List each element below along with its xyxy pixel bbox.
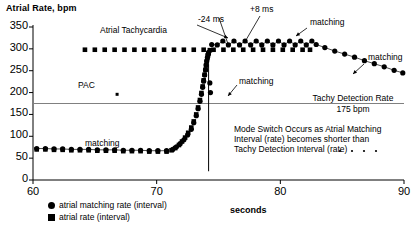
annotation-matching-descent: matching	[368, 52, 403, 62]
y-tick-label: 50	[0, 150, 28, 162]
y-tick-label: 200	[0, 85, 28, 97]
chart-root: Atrial Rate, bpm 0 50 100 150 200 250 30…	[0, 0, 416, 229]
x-tick-label: 90	[391, 185, 416, 197]
annotation-matching-baseline: matching	[85, 138, 120, 148]
tachy-detection-rate-value: 175 bpm	[294, 104, 412, 114]
legend-item-atrial-matching-rate: atrial matching rate (interval)	[48, 200, 167, 210]
circle-marker-icon	[48, 202, 55, 209]
plot-canvas	[0, 0, 416, 229]
y-tick-label: 0	[0, 172, 28, 184]
annotation-plus-8-ms: +8 ms	[250, 4, 273, 14]
legend-label: atrial rate (interval)	[59, 212, 130, 222]
square-marker-icon	[48, 214, 55, 221]
x-tick-label: 80	[267, 185, 293, 197]
legend-item-atrial-rate: atrial rate (interval)	[48, 212, 130, 222]
x-tick-label: 60	[20, 185, 46, 197]
x-axis-title: seconds	[230, 205, 267, 215]
mode-switch-note-line-1: Mode Switch Occurs as Atrial Matching	[234, 124, 381, 134]
tachy-detection-rate-label: Tachy Detection Rate	[294, 93, 412, 103]
mode-switch-note-line-2: Interval (rate) becomes shorter than	[234, 134, 369, 144]
annotation-matching-rise: matching	[239, 76, 274, 86]
legend-label: atrial matching rate (interval)	[59, 200, 167, 210]
y-tick-label: 100	[0, 128, 28, 140]
y-tick-label: 300	[0, 41, 28, 53]
y-tick-label: 350	[0, 19, 28, 31]
mode-switch-note-line-3: Tachy Detection Interval (rate)	[234, 144, 347, 154]
annotation-matching-plateau: matching	[310, 17, 345, 27]
annotation-minus-24-ms: -24 ms	[198, 14, 224, 24]
annotation-pac: PAC	[78, 80, 95, 90]
y-tick-label: 250	[0, 63, 28, 75]
annotation-atrial-tachycardia: Atrial Tachycardia	[100, 25, 167, 35]
y-tick-label: 150	[0, 106, 28, 118]
x-tick-label: 70	[144, 185, 170, 197]
